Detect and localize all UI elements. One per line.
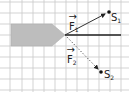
body-shape [11,24,65,46]
label-s2: S2 [104,69,114,81]
vector-f2: F2 → S2 [65,35,114,81]
force-diagram: F1 → S1 F2 → S2 [0,0,129,92]
label-f2: F2 [67,54,77,66]
vector-f1: F1 → S1 [65,10,121,35]
vector-arrow-mark-f1: → [69,11,77,22]
vector-arrow-mark-f2: → [67,44,75,55]
label-s1: S1 [111,12,121,24]
point-s2 [99,70,103,74]
